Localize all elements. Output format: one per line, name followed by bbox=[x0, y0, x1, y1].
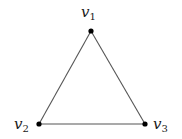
vertex-label-v3: v3 bbox=[153, 115, 168, 134]
vertex-label-v1-sub: 1 bbox=[89, 11, 95, 22]
edge-v1-v2 bbox=[39, 31, 91, 124]
vertex-v3 bbox=[142, 121, 147, 126]
vertex-label-v1: v1 bbox=[81, 3, 96, 22]
triangle-graph: v1 v2 v3 bbox=[0, 0, 182, 139]
edge-v1-v3 bbox=[91, 31, 145, 124]
vertex-v2 bbox=[36, 121, 41, 126]
vertex-label-v2-sub: 2 bbox=[22, 123, 28, 134]
edges-group bbox=[39, 31, 145, 124]
vertex-label-v2: v2 bbox=[14, 115, 29, 134]
vertex-label-v3-sub: 3 bbox=[161, 123, 167, 134]
vertex-v1 bbox=[88, 28, 93, 33]
labels-group: v1 v2 v3 bbox=[14, 3, 168, 134]
vertices-group bbox=[36, 28, 147, 126]
